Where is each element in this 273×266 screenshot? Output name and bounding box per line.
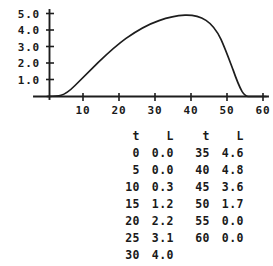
cell-t-right: 40 <box>174 162 210 179</box>
cell-l-left: 0.0 <box>140 145 174 162</box>
cell-l-right: 4.8 <box>210 162 244 179</box>
table-header-row: t L t L <box>118 128 244 145</box>
x-tick-label-50: 50 <box>220 105 235 116</box>
cell-l-left: 0.3 <box>140 179 174 196</box>
table-row: 25 3.1 60 0.0 <box>118 230 244 247</box>
cell-l-right: 1.7 <box>210 196 244 213</box>
cell-t-right: 60 <box>174 230 210 247</box>
cell-t-left: 10 <box>118 179 140 196</box>
header-l-left: L <box>140 128 174 145</box>
y-tick-label-2: 2.0 <box>8 58 40 69</box>
y-tick-label-1: 1.0 <box>8 74 40 85</box>
y-tick-label-5: 5.0 <box>8 8 40 19</box>
cell-t-right: 35 <box>174 145 210 162</box>
table-row: 20 2.2 55 0.0 <box>118 213 244 230</box>
cell-l-left: 2.2 <box>140 213 174 230</box>
y-tick-label-3: 3.0 <box>8 41 40 52</box>
table-row: 0 0.0 35 4.6 <box>118 145 244 162</box>
x-tick-label-20: 20 <box>112 105 127 116</box>
table-row: 5 0.0 40 4.8 <box>118 162 244 179</box>
x-tick-label-30: 30 <box>148 105 163 116</box>
data-table: t L t L 0 0.0 35 4.6 5 0.0 40 4.8 10 0.3 <box>118 128 244 264</box>
cell-l-right: 0.0 <box>210 230 244 247</box>
header-t-left: t <box>118 128 140 145</box>
data-table-region: t L t L 0 0.0 35 4.6 5 0.0 40 4.8 10 0.3 <box>0 128 273 264</box>
cell-t-right: 45 <box>174 179 210 196</box>
cell-l-right: 0.0 <box>210 213 244 230</box>
table-row: 30 4.0 <box>118 247 244 264</box>
chart-figure: 5.0 4.0 3.0 2.0 1.0 10 20 30 40 50 60 <box>0 0 273 122</box>
cell-t-left: 5 <box>118 162 140 179</box>
cell-l-left: 1.2 <box>140 196 174 213</box>
cell-t-right: 55 <box>174 213 210 230</box>
cell-t-left: 15 <box>118 196 140 213</box>
table-row: 15 1.2 50 1.7 <box>118 196 244 213</box>
cell-l-left: 3.1 <box>140 230 174 247</box>
cell-t-left: 20 <box>118 213 140 230</box>
header-l-right: L <box>210 128 244 145</box>
cell-l-left: 0.0 <box>140 162 174 179</box>
cell-l-right <box>210 247 244 264</box>
table-row: 10 0.3 45 3.6 <box>118 179 244 196</box>
header-t-right: t <box>174 128 210 145</box>
cell-l-left: 4.0 <box>140 247 174 264</box>
cell-t-left: 0 <box>118 145 140 162</box>
x-tick-label-10: 10 <box>76 105 91 116</box>
cell-t-right: 50 <box>174 196 210 213</box>
cell-t-right <box>174 247 210 264</box>
y-tick-label-4: 4.0 <box>8 25 40 36</box>
x-tick-label-60: 60 <box>256 105 271 116</box>
x-tick-label-40: 40 <box>184 105 199 116</box>
cell-l-right: 4.6 <box>210 145 244 162</box>
cell-l-right: 3.6 <box>210 179 244 196</box>
data-curve <box>47 15 266 96</box>
cell-t-left: 30 <box>118 247 140 264</box>
cell-t-left: 25 <box>118 230 140 247</box>
